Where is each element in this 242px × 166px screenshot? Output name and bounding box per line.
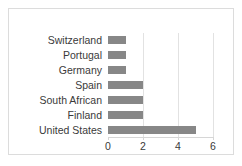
category-label: Finland xyxy=(68,108,102,122)
bar-row: Spain xyxy=(108,78,213,92)
category-label: Switzerland xyxy=(48,33,102,47)
bar-row: Finland xyxy=(108,108,213,122)
bar-row: Germany xyxy=(108,63,213,77)
category-label: Germany xyxy=(59,63,102,77)
bar xyxy=(108,126,196,134)
bar xyxy=(108,36,126,44)
bar xyxy=(108,51,126,59)
bar-row: Switzerland xyxy=(108,33,213,47)
x-tick-label-0: 0 xyxy=(96,140,120,152)
chart-frame: 0246 SwitzerlandPortugalGermanySpainSout… xyxy=(8,8,234,155)
category-label: United States xyxy=(39,123,102,137)
bar-row: South African xyxy=(108,93,213,107)
x-tick-label-6: 6 xyxy=(201,140,225,152)
bar-row: Portugal xyxy=(108,48,213,62)
gridline-6 xyxy=(213,33,214,137)
plot-area: SwitzerlandPortugalGermanySpainSouth Afr… xyxy=(108,33,213,137)
x-tick-label-2: 2 xyxy=(131,140,155,152)
category-label: Spain xyxy=(75,78,102,92)
bar-row: United States xyxy=(108,123,213,137)
x-axis-line xyxy=(108,137,214,138)
x-tick-label-4: 4 xyxy=(166,140,190,152)
category-label: South African xyxy=(40,93,102,107)
bar xyxy=(108,66,126,74)
bar xyxy=(108,81,143,89)
category-label: Portugal xyxy=(63,48,102,62)
bar xyxy=(108,96,143,104)
bar xyxy=(108,111,143,119)
